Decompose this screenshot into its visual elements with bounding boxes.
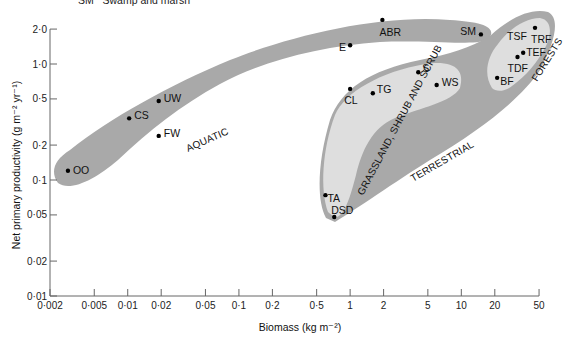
point-label-cs: CS <box>134 109 149 121</box>
x-tick-label: 10 <box>456 300 468 311</box>
point-label-uw: UW <box>164 92 182 104</box>
x-tick-label: 0·05 <box>195 300 215 311</box>
data-point <box>533 26 537 30</box>
x-tick-label: 5 <box>425 300 431 311</box>
data-point <box>157 99 161 103</box>
y-axis: 2·01·00·50·20·10·050·020·01 <box>27 24 57 302</box>
point-label-tef: TEF <box>526 46 546 58</box>
data-point <box>416 70 420 74</box>
data-point <box>495 76 499 80</box>
y-tick-label: 0·05 <box>27 209 47 220</box>
data-point <box>380 18 384 22</box>
y-tick-label: 1·0 <box>33 59 48 70</box>
x-tick-label: 0·002 <box>37 300 63 311</box>
data-point <box>479 32 483 36</box>
point-label-tsf: TSF <box>507 30 527 42</box>
data-point <box>434 83 438 87</box>
point-label-cl: CL <box>344 94 358 106</box>
data-point <box>127 116 131 120</box>
y-axis-title: Net primary productivity (g m⁻² yr⁻¹) <box>10 81 22 249</box>
x-tick-label: 0·01 <box>118 300 138 311</box>
point-label-oo: OO <box>73 164 89 176</box>
data-point <box>371 91 375 95</box>
point-label-e: E <box>339 41 346 53</box>
y-tick-label: 2·0 <box>33 24 48 35</box>
y-tick-label: 0·5 <box>33 93 48 104</box>
point-label-trf: TRF <box>531 33 551 45</box>
x-tick-label: 0·02 <box>151 300 171 311</box>
point-label-tg: TG <box>377 83 392 95</box>
data-point <box>66 169 70 173</box>
x-tick-label: 50 <box>533 300 545 311</box>
data-point <box>521 51 525 55</box>
data-point <box>348 43 352 47</box>
point-label-tdf: TDF <box>507 62 527 74</box>
x-axis: 0·0020·0050·010·020·050·10·20·5125102050 <box>37 289 545 311</box>
point-label-fw: FW <box>164 127 180 139</box>
point-label-ta: TA <box>327 192 340 204</box>
point-label-ws: WS <box>442 76 459 88</box>
y-tick-label: 0·1 <box>33 175 48 186</box>
x-tick-label: 2 <box>381 300 387 311</box>
data-point <box>348 87 352 91</box>
region-label-aquatic: AQUATIC <box>184 125 230 153</box>
y-tick-label: 0·02 <box>27 256 47 267</box>
point-label-bf: BF <box>500 75 513 87</box>
data-point <box>157 134 161 138</box>
x-tick-label: 0·5 <box>309 300 324 311</box>
x-tick-label: 0·1 <box>232 300 247 311</box>
x-tick-label: 1 <box>347 300 353 311</box>
x-tick-label: 20 <box>489 300 501 311</box>
productivity-biomass-chart: 2·01·00·50·20·10·050·020·01 0·0020·0050·… <box>0 0 565 342</box>
x-axis-title: Biomass (kg m⁻²) <box>259 321 341 333</box>
x-tick-label: 0·2 <box>265 300 280 311</box>
x-tick-label: 0·005 <box>81 300 107 311</box>
point-label-abr: ABR <box>379 26 401 38</box>
data-point <box>515 55 519 59</box>
point-label-s: S <box>422 62 429 74</box>
y-tick-label: 0·2 <box>33 140 48 151</box>
point-label-sm: SM <box>460 25 476 37</box>
point-label-dsd: DSD <box>331 204 354 216</box>
